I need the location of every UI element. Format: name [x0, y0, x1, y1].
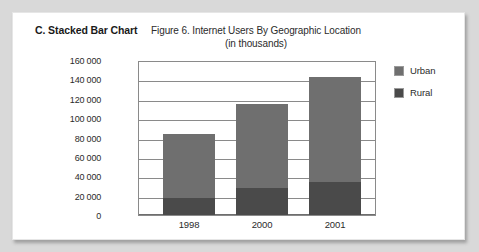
legend: Urban Rural [394, 65, 435, 109]
bar-segment-urban [236, 104, 288, 188]
bar-segment-rural [236, 188, 288, 215]
legend-swatch-urban [394, 66, 404, 76]
figure-card: C. Stacked Bar Chart Figure 6. Internet … [12, 12, 465, 240]
y-tick-label: 140 000 [70, 75, 101, 85]
legend-item-rural[interactable]: Rural [394, 87, 435, 98]
bar-2000[interactable] [236, 104, 288, 215]
y-tick-label: 60 000 [75, 153, 101, 163]
x-tick-label: 2000 [252, 219, 273, 230]
bar-1998[interactable] [163, 134, 215, 215]
x-tick-label: 1998 [179, 219, 200, 230]
y-tick-label: 0 [96, 211, 101, 221]
legend-label-urban: Urban [410, 65, 435, 76]
legend-label-rural: Rural [410, 87, 432, 98]
legend-item-urban[interactable]: Urban [394, 65, 435, 76]
y-tick-label: 80 000 [75, 134, 101, 144]
chart-area: 160 000 140 000 120 000 100 000 80 000 6… [13, 13, 466, 241]
bar-2001[interactable] [309, 77, 361, 215]
x-tick-label: 2001 [325, 219, 346, 230]
y-tick-label: 160 000 [70, 56, 101, 66]
y-tick-label: 40 000 [75, 172, 101, 182]
plot-area [138, 61, 376, 216]
bar-segment-urban [309, 77, 361, 182]
bar-segment-urban [163, 134, 215, 198]
bar-segment-rural [163, 198, 215, 215]
legend-swatch-rural [394, 88, 404, 98]
y-tick-label: 20 000 [75, 192, 101, 202]
screenshot-root: C. Stacked Bar Chart Figure 6. Internet … [0, 0, 479, 252]
y-tick-label: 120 000 [70, 95, 101, 105]
y-tick-label: 100 000 [70, 114, 101, 124]
bar-segment-rural [309, 182, 361, 215]
